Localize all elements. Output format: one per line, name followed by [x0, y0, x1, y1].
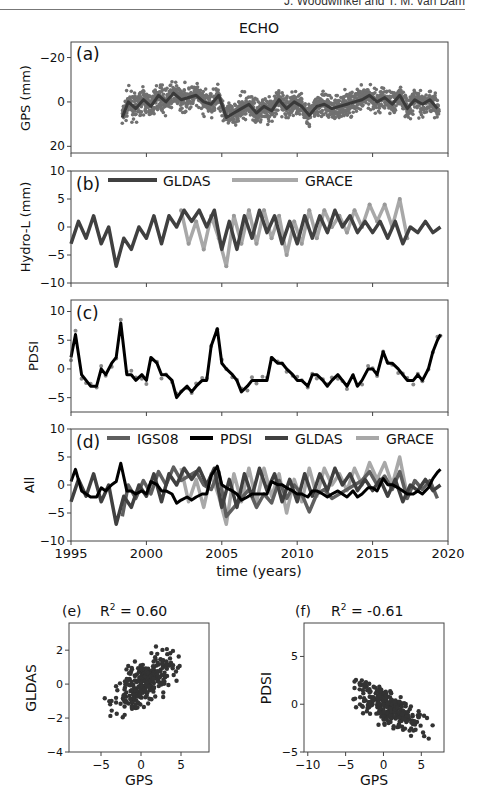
svg-text:0: 0 [57, 220, 65, 234]
svg-text:2000: 2000 [130, 546, 163, 561]
svg-text:0: 0 [57, 478, 65, 492]
svg-text:20: 20 [50, 139, 65, 153]
svg-text:0: 0 [291, 698, 298, 711]
legend-grace: GRACE [305, 173, 353, 189]
legend-gldas: GLDAS [295, 431, 343, 447]
panel-e-xlabel: GPS [125, 772, 153, 788]
panel-f-label: (f) [295, 603, 311, 619]
figure-title: ECHO [239, 20, 279, 36]
panel-d-yticks: 1050−5−10 [40, 422, 71, 548]
svg-text:0: 0 [380, 758, 388, 772]
svg-text:5: 5 [57, 192, 65, 206]
panel-b-xticks [71, 283, 448, 287]
svg-text:−5: −5 [92, 758, 110, 772]
svg-text:−5: −5 [47, 248, 65, 262]
svg-text:10: 10 [50, 304, 65, 318]
panel-a-xticks [71, 153, 448, 157]
svg-text:5: 5 [177, 758, 185, 772]
panel-e-ylabel: GLDAS [23, 664, 39, 712]
panel-f-r2: R2 = -0.61 [331, 602, 403, 619]
panel-f-xlabel: GPS [360, 772, 388, 788]
svg-text:−5: −5 [47, 391, 65, 405]
svg-text:2020: 2020 [431, 546, 464, 561]
svg-text:1995: 1995 [54, 546, 87, 561]
svg-text:10: 10 [50, 422, 65, 436]
svg-text:2015: 2015 [356, 546, 389, 561]
panel-b: (b) GLDAS GRACE Hydro-L (mm) 1050−5−10 [18, 164, 448, 290]
panel-a-yticks: 200−20 [40, 51, 71, 154]
svg-text:−5: −5 [47, 506, 65, 520]
panel-e-r2: R2 = 0.60 [100, 602, 167, 619]
svg-text:5: 5 [417, 758, 425, 772]
svg-text:2: 2 [56, 644, 63, 657]
legend-pdsi: PDSI [220, 431, 252, 447]
panel-d-label: (d) [76, 432, 100, 452]
svg-text:−10: −10 [295, 758, 320, 772]
svg-text:−5: −5 [337, 758, 355, 772]
panel-b-yticks: 1050−5−10 [40, 164, 71, 290]
panel-e: (e) R2 = 0.60 GPS GLDAS 20−2−4−505 [23, 602, 209, 788]
panel-c-ylabel: PDSI [26, 341, 41, 371]
svg-text:2010: 2010 [281, 546, 314, 561]
panel-b-ylabel: Hydro-L (mm) [18, 182, 33, 273]
panel-e-label: (e) [62, 603, 82, 619]
svg-text:5: 5 [57, 450, 65, 464]
panel-d-legend: IGS08 PDSI GLDAS GRACE [107, 431, 434, 447]
panel-c-label: (c) [76, 303, 99, 323]
panel-a-label: (a) [76, 44, 100, 64]
panel-c: (c) PDSI 1050−5 [26, 300, 448, 416]
panel-f-ylabel: PDSI [258, 672, 274, 704]
legend-igs08: IGS08 [137, 431, 179, 447]
panel-d-ylabel: All [22, 477, 37, 493]
svg-text:0: 0 [57, 362, 65, 376]
svg-text:5: 5 [291, 650, 298, 663]
svg-text:10: 10 [50, 164, 65, 178]
svg-text:−4: −4 [47, 746, 63, 759]
svg-text:−20: −20 [40, 51, 65, 65]
panel-a: (a) GPS (mm) 200−20 [18, 42, 448, 157]
svg-text:−2: −2 [47, 712, 63, 725]
svg-text:5: 5 [57, 333, 65, 347]
figure: ECHO (a) GPS (mm) 200−20 (b) GLDAS GRACE… [0, 0, 479, 807]
legend-gldas: GLDAS [163, 173, 211, 189]
panel-f: (f) R2 = -0.61 GPS PDSI 50−5−10−505 [258, 602, 444, 788]
legend-grace: GRACE [386, 431, 434, 447]
panel-a-ylabel: GPS (mm) [18, 65, 33, 131]
panel-b-label: (b) [76, 174, 100, 194]
svg-text:0: 0 [56, 678, 63, 691]
panel-c-xticks [71, 412, 448, 416]
svg-text:0: 0 [57, 95, 65, 109]
panel-d: (d) IGS08 PDSI GLDAS GRACE All 1050−5−10… [22, 422, 465, 579]
svg-text:2005: 2005 [205, 546, 238, 561]
panel-d-xticks: 199520002005201020152020 [54, 541, 464, 561]
panel-d-xlabel: time (years) [216, 563, 302, 579]
svg-text:−10: −10 [40, 276, 65, 290]
panel-b-legend: GLDAS GRACE [108, 173, 353, 189]
svg-text:0: 0 [137, 758, 145, 772]
panel-c-yticks: 1050−5 [47, 304, 71, 404]
